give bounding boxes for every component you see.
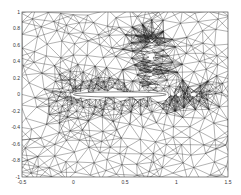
y-axis-ticks: -1-0.8-0.6-0.4-0.200.20.40.60.81 [11,9,20,180]
x-tick-label: 0.5 [122,179,129,185]
y-tick-label: -0.4 [11,124,20,130]
y-tick-label: -0.6 [11,141,20,147]
y-tick-label: 0.2 [13,75,20,81]
mesh-plot: -1-0.8-0.6-0.4-0.200.20.40.60.81 -0.500.… [0,0,241,195]
y-tick-label: 1 [17,9,20,15]
x-tick-label: 1 [175,179,178,185]
y-tick-label: 0.8 [13,25,20,31]
x-axis-ticks: -0.500.511.5 [18,179,232,185]
y-tick-label: 0.6 [13,42,20,48]
y-tick-label: 0.4 [13,58,20,64]
x-tick-label: -0.5 [18,179,27,185]
y-tick-label: -0.8 [11,157,20,163]
x-tick-label: 0 [72,179,75,185]
x-tick-label: 1.5 [225,179,232,185]
y-tick-label: 0 [17,91,20,97]
airfoil-shape [74,92,167,97]
y-tick-label: -0.2 [11,108,20,114]
